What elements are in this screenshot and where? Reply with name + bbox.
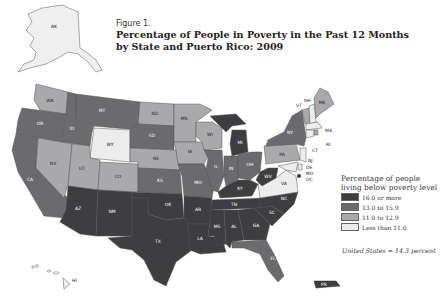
state-AR: AR <box>184 196 212 224</box>
callout-NJ: NJ <box>308 158 313 163</box>
legend-item-11-12: 11.0 to 12.9 <box>341 212 443 222</box>
label-AZ: AZ <box>75 206 81 211</box>
legend-item-16-plus: 16.0 or more <box>341 192 443 202</box>
label-CO: CO <box>115 174 122 179</box>
label-WI: WI <box>207 132 213 137</box>
callout-DC: DC <box>306 177 313 182</box>
label-OH: OH <box>247 162 254 167</box>
legend-title-line-1: Percentage of people <box>341 174 443 183</box>
state-AZ: AZ <box>60 186 98 236</box>
label-AR: AR <box>195 207 201 212</box>
callout-MD: MD <box>306 171 314 176</box>
label-ME: ME <box>319 100 326 105</box>
label-TX: TX <box>154 239 161 244</box>
label-MO: MO <box>194 180 202 185</box>
callout-MA: MA <box>325 128 333 133</box>
label-PA: PA <box>279 152 285 157</box>
label-VA: VA <box>281 181 288 186</box>
label-GA: GA <box>253 223 260 228</box>
label-TN: TN <box>230 202 237 207</box>
label-IN: IN <box>229 166 234 171</box>
legend-item-13-15: 13.0 to 15.9 <box>341 202 443 212</box>
label-ND: ND <box>152 111 159 116</box>
label-MI: MI <box>237 140 242 145</box>
label-AK: AK <box>51 24 58 29</box>
label-AL: AL <box>231 224 237 229</box>
national-rate-note: United States = 14.3 percent <box>342 247 436 254</box>
state-DE <box>298 164 302 170</box>
state-SD: SD <box>130 124 174 150</box>
label-NY: NY <box>287 130 293 135</box>
callout-CT: CT <box>312 148 318 153</box>
label-ID: ID <box>70 126 75 131</box>
state-NM: NM <box>96 190 132 236</box>
legend-swatch-11-12 <box>341 213 359 221</box>
label-MT: MT <box>99 108 106 113</box>
legend-title: Percentage of people living below povert… <box>341 174 443 192</box>
label-NM: NM <box>108 209 115 214</box>
label-FL: FL <box>270 256 276 261</box>
label-SC: SC <box>269 210 275 215</box>
state-DC <box>297 174 301 178</box>
legend-swatch-13-15 <box>341 203 359 211</box>
state-WA: WA <box>34 84 68 114</box>
label-IL: IL <box>214 164 218 169</box>
state-CT <box>306 130 314 138</box>
label-OK: OK <box>165 202 173 207</box>
label-KY: KY <box>237 186 243 191</box>
state-CO: CO <box>98 162 138 192</box>
label-MN: MN <box>180 116 187 121</box>
state-PR: PR <box>314 281 340 288</box>
state-HI: HI <box>32 265 77 289</box>
state-NJ <box>300 148 306 162</box>
callout-RI: RI <box>326 142 330 147</box>
label-WA: WA <box>46 98 54 103</box>
legend-swatch-16-plus <box>341 193 359 201</box>
label-SD: SD <box>149 133 156 138</box>
state-WY: WY <box>90 128 130 162</box>
label-NV: NV <box>50 161 57 166</box>
label-NC: NC <box>281 196 288 201</box>
callout-NH: NH <box>304 98 311 103</box>
label-HI: HI <box>72 278 77 283</box>
label-OR: OR <box>37 121 44 126</box>
state-MA <box>306 122 322 130</box>
legend-label-16-plus: 16.0 or more <box>362 194 401 201</box>
callout-VT: VT <box>296 103 302 108</box>
state-ND: ND <box>138 102 174 126</box>
legend-label-11-12: 11.0 to 12.9 <box>362 214 399 221</box>
label-WY: WY <box>106 142 113 147</box>
label-LA: LA <box>197 236 204 241</box>
label-CA: CA <box>27 177 34 182</box>
state-KS: KS <box>138 168 182 194</box>
state-AK: AK <box>18 5 102 72</box>
legend-label-13-15: 13.0 to 15.9 <box>362 204 399 211</box>
legend: Percentage of people living below povert… <box>341 174 443 232</box>
legend-label-under-11: Less than 11.0 <box>362 224 407 231</box>
state-RI <box>314 130 318 135</box>
state-MD <box>278 162 298 172</box>
state-ME: ME <box>314 88 334 118</box>
label-NE: NE <box>153 156 159 161</box>
label-PR: PR <box>321 282 327 287</box>
legend-item-under-11: Less than 11.0 <box>341 222 443 232</box>
state-FL: FL <box>232 240 284 282</box>
label-UT: UT <box>79 166 85 171</box>
state-KY: KY <box>218 180 258 198</box>
label-WV: WV <box>264 174 272 179</box>
label-KS: KS <box>157 178 163 183</box>
state-MT: MT <box>76 94 140 132</box>
legend-title-line-2: living below poverty level <box>341 183 443 192</box>
legend-swatch-under-11 <box>341 223 359 231</box>
state-PA: PA <box>264 144 300 164</box>
callout-DE: DE <box>306 165 312 170</box>
label-MS: MS <box>214 224 221 229</box>
state-NY: NY <box>266 110 306 146</box>
